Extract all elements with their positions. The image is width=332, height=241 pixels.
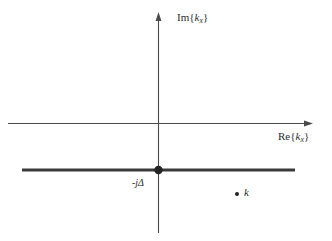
branch-point-marker [154,166,162,174]
real-axis-arrowhead [304,121,313,127]
real-axis-label-close: } [304,130,309,142]
imaginary-axis-label-close: } [203,11,208,23]
figure-canvas [0,0,332,241]
real-axis-label: Re{kx} [278,131,309,144]
pole-marker [235,192,239,196]
pole-label: k [244,187,249,198]
imaginary-axis-group [156,12,162,233]
branch-point-label: -jΔ [132,178,144,188]
complex-plane-figure: Im{kx} Re{kx} -jΔ k [0,0,332,241]
real-axis-group [8,121,313,127]
imaginary-axis-arrowhead [156,12,162,21]
imaginary-axis-label-prefix: Im [177,11,189,23]
real-axis-label-prefix: Re [278,130,290,142]
imaginary-axis-label: Im{kx} [177,12,208,25]
